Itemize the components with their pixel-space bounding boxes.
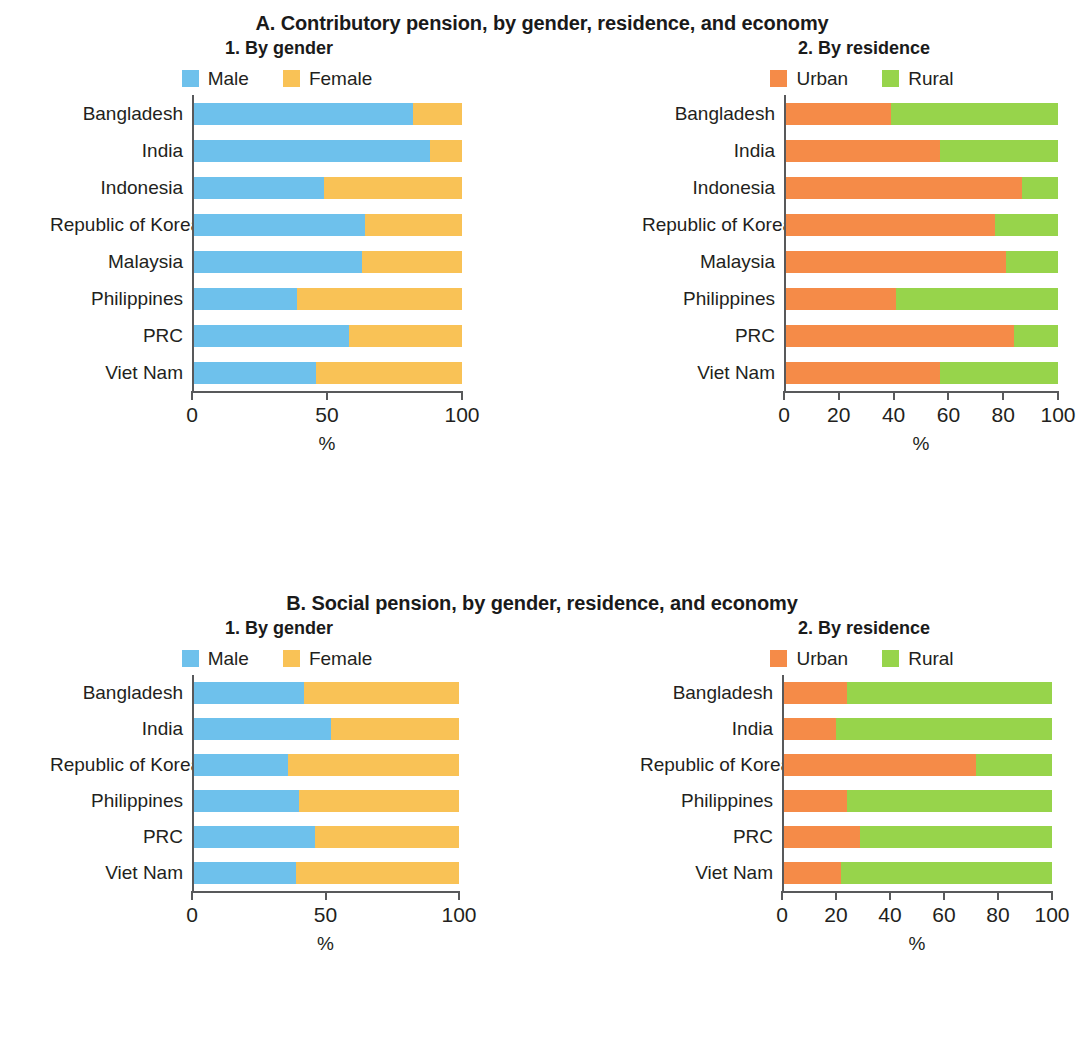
legend-swatch-urban-icon (770, 650, 787, 667)
section-social-pension: B. Social pension, by gender, residence,… (0, 578, 1084, 1038)
bar-segment-female (296, 862, 459, 884)
category-label: India (50, 718, 192, 740)
x-axis-tick (838, 391, 840, 400)
x-axis: 050100% (0, 891, 540, 953)
category-label: PRC (642, 325, 784, 347)
section-contributory-pension: A. Contributory pension, by gender, resi… (0, 0, 1084, 560)
bar-segment-rural (860, 826, 1052, 848)
bar-row: Malaysia (642, 243, 1084, 280)
legend-item-female: Female (283, 69, 372, 88)
legend-label-urban: Urban (796, 69, 848, 88)
x-axis-tick (1057, 391, 1059, 400)
bar-row: India (50, 132, 540, 169)
panel-b1-plot: BangladeshIndiaRepublic of KoreaPhilippi… (0, 675, 540, 953)
bar-segment-female (365, 214, 462, 236)
bar-row: Indonesia (642, 169, 1084, 206)
x-axis-title: % (317, 933, 334, 955)
x-axis: 020406080100% (544, 391, 1084, 453)
legend-item-male: Male (182, 69, 249, 88)
legend-swatch-rural-icon (882, 70, 899, 87)
category-label: Indonesia (50, 177, 192, 199)
bar-row: PRC (50, 317, 540, 354)
x-axis-tick (947, 391, 949, 400)
bar-segment-rural (836, 718, 1052, 740)
category-label: Republic of Korea (640, 754, 782, 776)
category-label: Bangladesh (640, 682, 782, 704)
bar-segment-male (192, 790, 299, 812)
x-axis-tick-label: 80 (992, 403, 1015, 427)
x-axis-tick (835, 891, 837, 900)
category-label: India (50, 140, 192, 162)
bar-rows: BangladeshIndiaIndonesiaRepublic of Kore… (0, 95, 540, 391)
bar-segment-male (192, 177, 324, 199)
panel-a2-legend: Urban Rural (544, 61, 1084, 95)
bar-segment-female (297, 288, 462, 310)
stacked-bar (192, 718, 459, 740)
bar-segment-urban (784, 362, 940, 384)
x-axis-tick (1051, 891, 1053, 900)
x-axis-tick-label: 100 (444, 403, 479, 427)
bar-segment-male (192, 214, 365, 236)
x-axis-tick-label: 40 (882, 403, 905, 427)
category-label: Bangladesh (50, 682, 192, 704)
bar-row: Republic of Korea (640, 747, 1084, 783)
legend-item-rural: Rural (882, 649, 953, 668)
category-label: India (642, 140, 784, 162)
bar-segment-female (362, 251, 462, 273)
x-axis-line (784, 391, 1058, 393)
legend-item-female: Female (283, 649, 372, 668)
x-axis-tick (997, 891, 999, 900)
stacked-bar (782, 682, 1052, 704)
bar-segment-rural (1014, 325, 1058, 347)
stacked-bar (784, 140, 1058, 162)
legend-swatch-male-icon (182, 70, 199, 87)
x-axis-tick (326, 391, 328, 400)
x-axis-tick (893, 391, 895, 400)
bar-segment-female (299, 790, 459, 812)
category-label: Philippines (642, 288, 784, 310)
bar-row: PRC (642, 317, 1084, 354)
legend-swatch-male-icon (182, 650, 199, 667)
bar-segment-male (192, 325, 349, 347)
bar-segment-male (192, 682, 304, 704)
bar-row: Republic of Korea (50, 747, 540, 783)
bar-segment-female (331, 718, 459, 740)
y-axis-line (782, 675, 784, 893)
bar-segment-female (304, 682, 459, 704)
bar-segment-female (288, 754, 459, 776)
x-axis-title: % (319, 433, 336, 455)
bar-segment-rural (847, 790, 1052, 812)
bar-segment-rural (896, 288, 1058, 310)
bar-segment-urban (784, 288, 896, 310)
category-label: Philippines (50, 288, 192, 310)
panel-b1-by-gender: 1. By gender Male Female BangladeshIndia… (0, 615, 540, 953)
stacked-bar (192, 251, 462, 273)
x-axis-tick-label: 60 (937, 403, 960, 427)
x-axis-tick (191, 391, 193, 400)
panel-b2-legend: Urban Rural (544, 641, 1084, 675)
category-label: Philippines (640, 790, 782, 812)
x-axis-tick (325, 891, 327, 900)
stacked-bar (784, 325, 1058, 347)
x-axis-tick-label: 0 (186, 403, 198, 427)
bar-segment-male (192, 862, 296, 884)
panel-a2-by-residence: 2. By residence Urban Rural BangladeshIn… (544, 35, 1084, 453)
stacked-bar (784, 177, 1058, 199)
panel-b2-title: 2. By residence (544, 615, 1084, 641)
x-axis-tick-label: 100 (1040, 403, 1075, 427)
legend-label-rural: Rural (908, 649, 953, 668)
bar-segment-rural (976, 754, 1052, 776)
x-axis-tick-label: 0 (186, 903, 198, 927)
bar-row: Bangladesh (50, 675, 540, 711)
bar-segment-male (192, 718, 331, 740)
bar-row: India (50, 711, 540, 747)
pension-figure: A. Contributory pension, by gender, resi… (0, 0, 1084, 1038)
stacked-bar (782, 862, 1052, 884)
bar-segment-urban (784, 251, 1006, 273)
bar-segment-rural (891, 103, 1058, 125)
bar-segment-male (192, 362, 316, 384)
stacked-bar (782, 826, 1052, 848)
category-label: Malaysia (642, 251, 784, 273)
stacked-bar (192, 790, 459, 812)
bar-rows: BangladeshIndiaRepublic of KoreaPhilippi… (544, 675, 1084, 891)
